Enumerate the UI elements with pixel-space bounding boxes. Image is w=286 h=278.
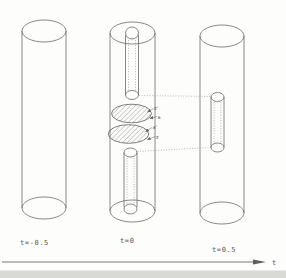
upper-tube-bottom-cap xyxy=(126,91,139,100)
figure-canvas: z' a a' z t=-0.5 t=0 t= xyxy=(0,0,286,278)
left-cylinder-top-ellipse xyxy=(22,20,66,42)
time-axis-arrowhead-icon xyxy=(253,259,266,264)
middle-lower-inner-tube xyxy=(124,148,137,214)
upper-disk-top-label: z' xyxy=(154,105,158,111)
cylinder-surgery-diagram: z' a a' z t=-0.5 t=0 t= xyxy=(0,0,286,278)
cylinder-t-minus-half xyxy=(22,20,66,219)
time-axis-label: t xyxy=(272,259,276,267)
time-label-minus-half: t=-0.5 xyxy=(20,239,49,247)
upper-disk-bottom-pointer-arrow xyxy=(150,117,157,119)
right-tube-top-cap xyxy=(211,93,224,102)
upper-tube-top-hole xyxy=(126,27,139,39)
left-cylinder-bottom-ellipse xyxy=(22,197,66,219)
upper-hatched-disk xyxy=(112,104,152,123)
right-cylinder-top-ellipse xyxy=(200,25,244,47)
upper-disk-bottom-label: a xyxy=(158,114,161,120)
right-inner-tube xyxy=(211,93,224,153)
middle-cylinder-top-ellipse xyxy=(110,22,155,44)
lower-hatched-disk xyxy=(108,125,149,144)
lower-disk-bottom-label: z xyxy=(156,134,159,140)
middle-upper-inner-tube xyxy=(126,27,139,100)
page-edge-strip xyxy=(0,271,286,278)
time-axis: t xyxy=(2,259,276,267)
middle-cylinder-bottom-ellipse xyxy=(110,200,155,222)
lower-disk-top-label: a' xyxy=(153,124,157,130)
lower-disk-bottom-pointer-arrow xyxy=(148,137,156,140)
time-label-zero: t=0 xyxy=(120,237,134,245)
cylinder-t-plus-half xyxy=(200,25,244,224)
lower-tube-bottom-hole xyxy=(124,204,137,214)
right-cylinder-bottom-ellipse xyxy=(200,202,244,224)
right-tube-bottom-cap xyxy=(211,143,224,152)
cylinder-t-zero: z' a a' z xyxy=(108,22,160,222)
lower-tube-top-cap xyxy=(124,148,137,157)
time-label-plus-half: t=0.5 xyxy=(212,246,236,254)
